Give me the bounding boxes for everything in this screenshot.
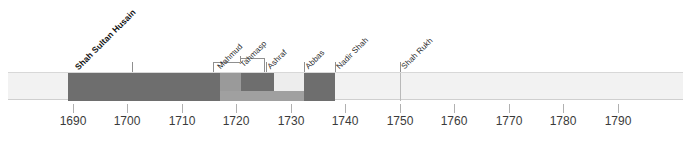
leader-line-mahmud (213, 62, 214, 72)
axis-tick-label-1770: 1770 (496, 114, 523, 128)
leader-line-shah-sultan-husain (132, 62, 133, 72)
reign-segment-mahmud[interactable] (220, 73, 241, 91)
reign-segment-nadir-shah[interactable] (304, 73, 335, 91)
reign-segment-tahmasp[interactable] (220, 91, 304, 101)
reign-segment-nadir-shah-lower (304, 91, 335, 101)
axis-tick-label-1690: 1690 (60, 114, 87, 128)
reign-segment-abbas[interactable] (274, 73, 304, 91)
axis-tick-1730 (291, 104, 292, 113)
reign-label-shah-rukh: Shah Rukh (400, 36, 435, 71)
axis-tick-label-1710: 1710 (169, 114, 196, 128)
axis-tick-1750 (400, 104, 401, 113)
axis-tick-label-1750: 1750 (387, 114, 414, 128)
reign-segment-shah-sultan-husain[interactable] (68, 73, 220, 91)
axis-tick-1760 (454, 104, 455, 113)
timeline-band (8, 72, 683, 100)
reign-label-nadir-shah: Nadir Shah (335, 36, 370, 71)
axis-tick-1720 (236, 104, 237, 113)
axis-tick-1740 (345, 104, 346, 113)
reign-label-abbas: Abbas (304, 48, 327, 71)
axis-tick-1700 (127, 104, 128, 113)
timeline-band-segments (8, 73, 683, 99)
leader-line-tahmasp (264, 58, 265, 72)
axis-tick-label-1700: 1700 (114, 114, 141, 128)
axis-tick-label-1790: 1790 (605, 114, 632, 128)
reign-segment-shah-sultan-husain-lower (68, 91, 220, 101)
reign-segment-ashraf[interactable] (241, 73, 274, 91)
axis-tick-1710 (182, 104, 183, 113)
reign-marker-shah-rukh[interactable] (400, 73, 401, 101)
axis-tick-label-1720: 1720 (223, 114, 250, 128)
axis-tick-label-1740: 1740 (332, 114, 359, 128)
reign-label-ashraf: Ashraf (266, 48, 289, 71)
axis-tick-label-1780: 1780 (550, 114, 577, 128)
axis-tick-label-1730: 1730 (278, 114, 305, 128)
timeline-figure: Shah Sultan Husain Mahmud Tahmasp Ashraf… (0, 0, 693, 144)
axis-tick-label-1760: 1760 (441, 114, 468, 128)
axis-tick-1790 (618, 104, 619, 113)
axis-tick-1690 (73, 104, 74, 113)
axis-tick-1770 (509, 104, 510, 113)
reign-label-shah-sultan-husain: Shah Sultan Husain (73, 7, 138, 72)
axis-tick-1780 (563, 104, 564, 113)
